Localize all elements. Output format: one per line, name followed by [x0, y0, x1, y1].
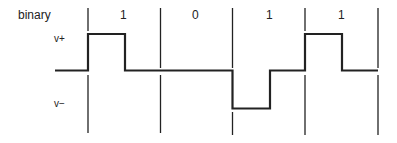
waveform-diagram [0, 0, 397, 143]
signal-waveform [55, 34, 378, 109]
